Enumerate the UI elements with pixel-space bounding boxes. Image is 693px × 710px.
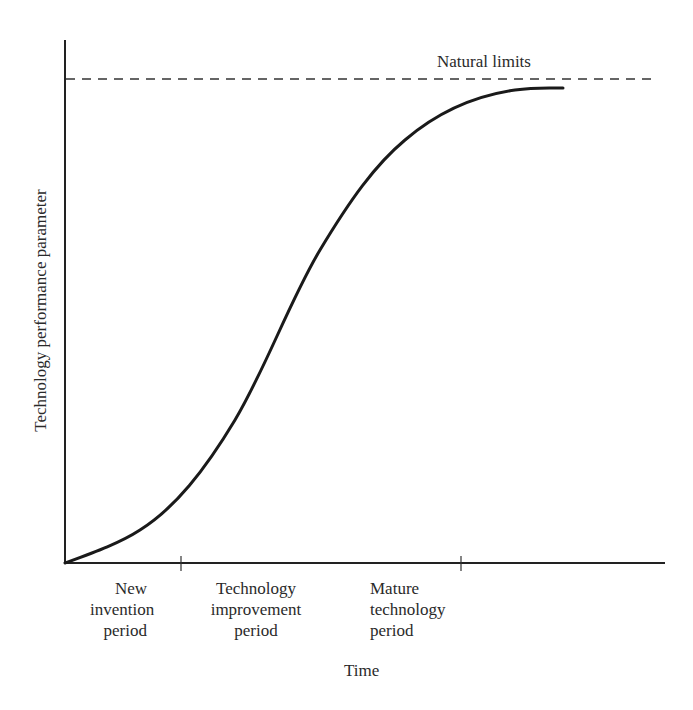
natural-limits-label: Natural limits: [437, 51, 531, 72]
phase3-line1: Mature: [370, 578, 480, 599]
phase-technology-improvement: Technology improvement period: [194, 578, 318, 641]
s-curve: [65, 88, 563, 563]
y-axis-label: Technology performance parameter: [30, 131, 51, 491]
phase-new-invention: New invention period: [90, 578, 147, 641]
phase1-line2: invention: [90, 599, 147, 620]
phase1-line1: New: [90, 578, 147, 599]
phase2-line2: improvement: [194, 599, 318, 620]
phase3-line3: period: [370, 620, 480, 641]
phase3-line2: technology: [370, 599, 480, 620]
x-axis-label: Time: [344, 660, 379, 681]
phase2-line3: period: [194, 620, 318, 641]
phase1-line3: period: [90, 620, 147, 641]
phase-mature-technology: Mature technology period: [370, 578, 480, 641]
phase2-line1: Technology: [194, 578, 318, 599]
